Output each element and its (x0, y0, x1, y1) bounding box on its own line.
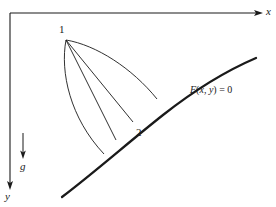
point-1-label: 1 (59, 24, 65, 35)
path-curved-right (66, 40, 157, 99)
point-2-label: 2 (136, 127, 142, 138)
path-straight-middle (66, 40, 133, 122)
path-curved-left (64, 40, 104, 154)
gravity-arrow (20, 133, 26, 159)
y-axis (7, 13, 13, 190)
terminal-curve-label: F(x, y) = 0 (190, 85, 232, 95)
y-axis-label: y (5, 191, 10, 202)
x-axis-label: x (266, 6, 271, 17)
brachistochrone-variational-diagram: x y g 1 2 F(x, y) = 0 (0, 0, 276, 207)
curve-label-equals-zero: = 0 (217, 84, 233, 95)
gravity-label: g (20, 161, 26, 172)
terminal-curve (62, 58, 256, 197)
x-axis (10, 10, 263, 16)
path-straight-outer-left (66, 40, 116, 140)
